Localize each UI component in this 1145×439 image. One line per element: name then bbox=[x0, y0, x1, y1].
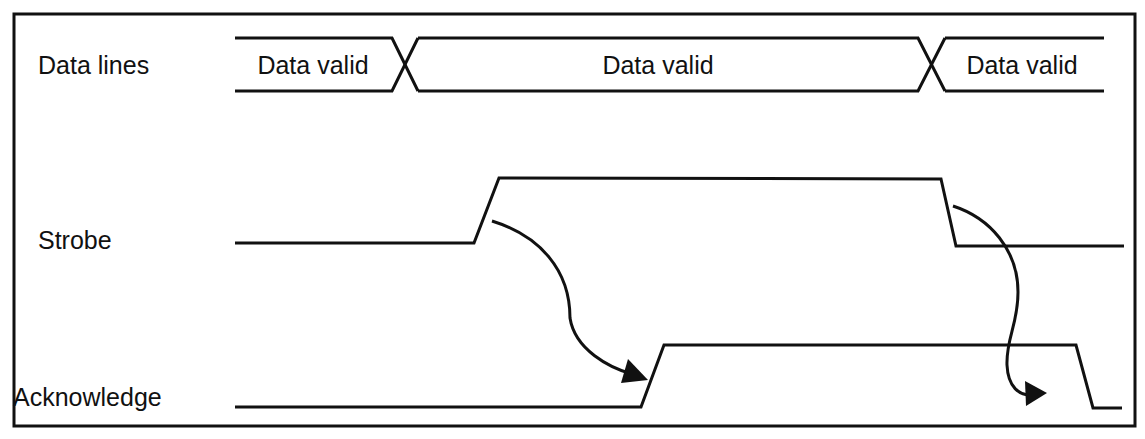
timing-diagram: Data lines Strobe Acknowledge Data valid… bbox=[0, 0, 1145, 439]
arrowhead-icon bbox=[1025, 381, 1047, 406]
data-segment-1-label: Data valid bbox=[257, 50, 368, 80]
signal-label-data-lines: Data lines bbox=[38, 50, 149, 80]
arrow-strobe-rise-to-ack-rise bbox=[492, 221, 648, 383]
arrow-strobe-fall-to-ack-fall bbox=[953, 206, 1047, 406]
data-segment-2-label: Data valid bbox=[602, 50, 713, 80]
arrowhead-icon bbox=[621, 359, 648, 383]
signal-label-strobe: Strobe bbox=[38, 225, 112, 255]
data-segment-3-label: Data valid bbox=[966, 50, 1077, 80]
acknowledge-waveform bbox=[235, 345, 1122, 408]
strobe-waveform bbox=[235, 178, 1124, 246]
signal-label-acknowledge: Acknowledge bbox=[13, 382, 162, 412]
